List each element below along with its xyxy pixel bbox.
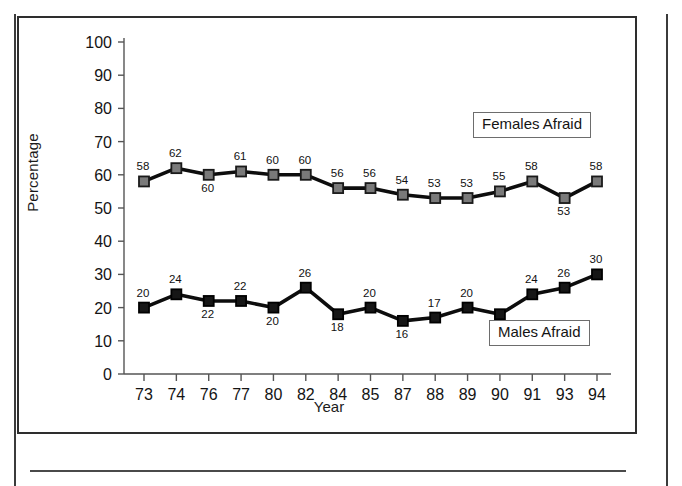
- y-tick-label: 80: [94, 100, 112, 117]
- data-point-value-label: 58: [137, 160, 150, 172]
- data-point-value-label: 61: [234, 150, 247, 162]
- data-point-marker: [236, 296, 246, 306]
- y-tick-label: 100: [85, 34, 112, 51]
- data-point-value-label: 30: [590, 253, 603, 265]
- data-point-value-label: 20: [266, 315, 279, 327]
- data-point-marker: [204, 170, 214, 180]
- y-axis-title: Percentage: [24, 133, 41, 212]
- page-canvas: 0102030405060708090100 73747677808284858…: [0, 0, 682, 486]
- data-point-marker: [560, 193, 570, 203]
- page-rule-bottom: [30, 470, 626, 472]
- page-rule-right: [666, 14, 668, 486]
- y-tick-label: 0: [103, 366, 112, 383]
- data-point-value-label: 60: [298, 154, 311, 166]
- data-point-marker: [204, 296, 214, 306]
- data-point-value-label: 22: [234, 280, 247, 292]
- y-tick-label: 90: [94, 67, 112, 84]
- data-point-marker: [268, 170, 278, 180]
- data-point-value-label: 18: [331, 321, 344, 333]
- data-point-marker: [398, 190, 408, 200]
- legend-females-afraid: Females Afraid: [473, 112, 591, 138]
- data-point-marker: [139, 176, 149, 186]
- chart-figure: 0102030405060708090100 73747677808284858…: [17, 16, 637, 434]
- data-point-marker: [301, 283, 311, 293]
- data-point-marker: [366, 303, 376, 313]
- y-tick-label: 10: [94, 333, 112, 350]
- data-point-marker: [430, 193, 440, 203]
- data-point-value-label: 58: [525, 160, 538, 172]
- data-point-value-label: 58: [590, 160, 603, 172]
- y-tick-label: 60: [94, 167, 112, 184]
- data-point-marker: [495, 309, 505, 319]
- data-point-marker: [268, 303, 278, 313]
- data-point-value-label: 60: [201, 182, 214, 194]
- data-point-marker: [333, 183, 343, 193]
- x-axis-title: Year: [19, 398, 639, 415]
- data-point-value-label: 55: [493, 170, 506, 182]
- data-point-marker: [398, 316, 408, 326]
- data-point-marker: [366, 183, 376, 193]
- data-point-value-label: 54: [395, 174, 408, 186]
- data-point-marker: [560, 283, 570, 293]
- data-point-value-label: 24: [169, 273, 182, 285]
- data-point-value-label: 22: [201, 308, 214, 320]
- y-tick-label: 40: [94, 233, 112, 250]
- data-point-value-label: 62: [169, 147, 182, 159]
- data-point-marker: [592, 176, 602, 186]
- data-point-value-label: 26: [298, 267, 311, 279]
- data-point-value-label: 20: [460, 287, 473, 299]
- data-point-marker: [301, 170, 311, 180]
- data-point-marker: [171, 289, 181, 299]
- data-point-value-label: 53: [557, 205, 570, 217]
- data-point-value-label: 26: [557, 267, 570, 279]
- y-axis: 0102030405060708090100: [85, 34, 124, 383]
- data-point-marker: [171, 163, 181, 173]
- data-point-value-label: 17: [428, 297, 441, 309]
- page-rule-left: [14, 14, 16, 486]
- y-tick-label: 50: [94, 200, 112, 217]
- data-point-value-label: 56: [331, 167, 344, 179]
- data-point-value-label: 20: [137, 287, 150, 299]
- y-tick-label: 20: [94, 300, 112, 317]
- data-point-value-label: 53: [460, 177, 473, 189]
- legend-males-afraid: Males Afraid: [489, 320, 590, 346]
- data-point-marker: [495, 186, 505, 196]
- line-chart-plot: 0102030405060708090100 73747677808284858…: [19, 18, 635, 432]
- data-point-value-label: 20: [363, 287, 376, 299]
- data-point-marker: [527, 176, 537, 186]
- data-point-value-label: 24: [525, 273, 538, 285]
- data-point-marker: [463, 193, 473, 203]
- data-point-marker: [463, 303, 473, 313]
- data-point-marker: [527, 289, 537, 299]
- data-point-value-label: 16: [395, 328, 408, 340]
- y-tick-label: 30: [94, 266, 112, 283]
- data-point-marker: [139, 303, 149, 313]
- data-point-marker: [236, 166, 246, 176]
- data-point-marker: [333, 309, 343, 319]
- data-point-value-label: 60: [266, 154, 279, 166]
- data-point-marker: [592, 269, 602, 279]
- data-point-value-label: 56: [363, 167, 376, 179]
- y-tick-label: 70: [94, 134, 112, 151]
- data-point-value-label: 53: [428, 177, 441, 189]
- data-point-marker: [430, 313, 440, 323]
